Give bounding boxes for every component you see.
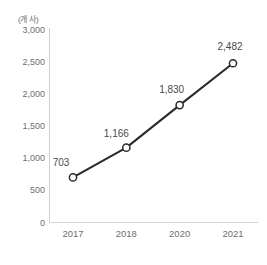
x-axis-tick-label: 2020 bbox=[169, 228, 190, 239]
data-point-label: 1,830 bbox=[159, 84, 184, 95]
x-axis-tick-label: 2021 bbox=[222, 228, 243, 239]
x-axis-tick-label: 2018 bbox=[116, 228, 137, 239]
x-axis-tick-label: 2017 bbox=[62, 228, 83, 239]
data-point-marker bbox=[123, 144, 130, 151]
data-point-label: 703 bbox=[53, 157, 70, 168]
data-point-label: 2,482 bbox=[217, 41, 242, 52]
data-point-label: 1,166 bbox=[104, 128, 129, 139]
line-chart: (개 사) 05001,0001,5002,0002,5003,000 2017… bbox=[0, 0, 267, 265]
plot-area bbox=[0, 0, 267, 265]
series-markers bbox=[69, 60, 236, 181]
data-point-marker bbox=[69, 174, 76, 181]
data-point-marker bbox=[176, 101, 183, 108]
data-point-marker bbox=[229, 60, 236, 67]
series-line bbox=[73, 63, 233, 177]
